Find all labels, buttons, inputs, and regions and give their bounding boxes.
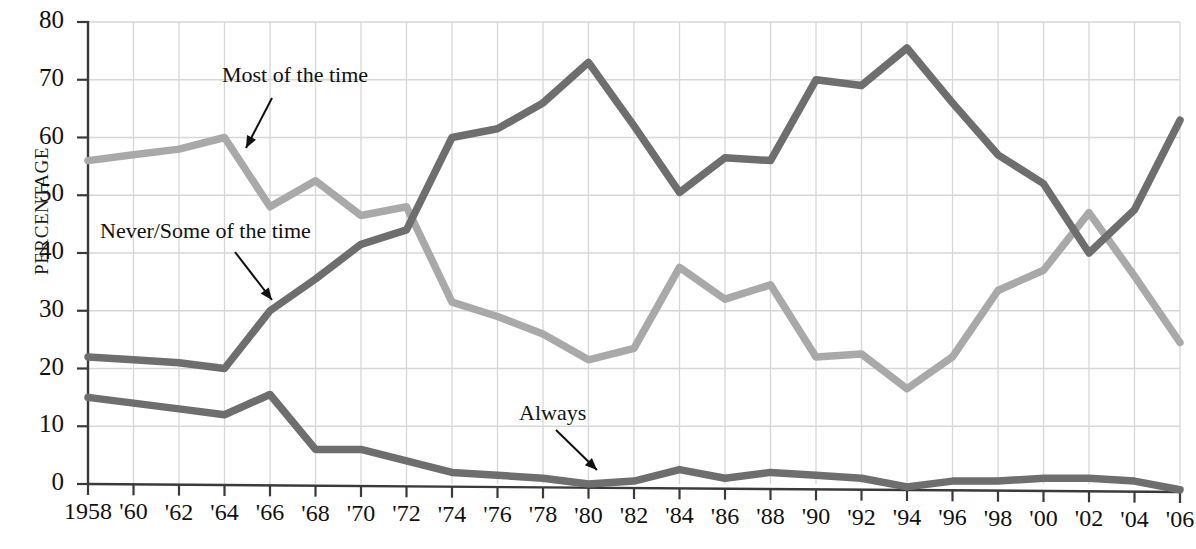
annotation-most-of-the-time: Most of the time — [222, 62, 368, 88]
annotation-never-some-of-the-time: Never/Some of the time — [100, 218, 311, 244]
plot-area — [0, 0, 1196, 549]
annotation-always: Always — [519, 400, 586, 426]
chart-container: PERCENTAGE 01020304050607080 1958'60'62'… — [0, 0, 1196, 549]
gridlines — [88, 22, 1180, 484]
